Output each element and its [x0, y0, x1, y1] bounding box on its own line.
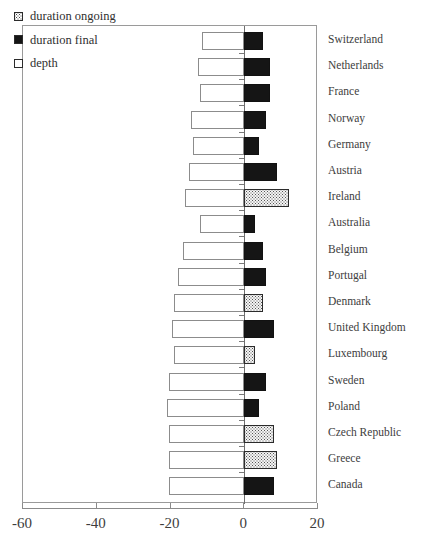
category-tick — [239, 236, 244, 237]
bar-duration-final — [244, 163, 277, 181]
bar-duration-final — [244, 242, 262, 260]
category-tick — [239, 394, 244, 395]
category-tick — [239, 263, 244, 264]
category-tick — [239, 289, 244, 290]
bar-depth — [174, 294, 244, 312]
x-axis-tick — [22, 503, 23, 509]
category-tick — [239, 158, 244, 159]
bar-depth — [169, 425, 245, 443]
category-label-portugal: Portugal — [328, 270, 367, 282]
legend-item-duration-final: duration final — [14, 34, 116, 47]
bar-duration-ongoing — [244, 425, 274, 443]
category-tick — [239, 53, 244, 54]
category-label-greece: Greece — [328, 453, 361, 465]
category-label-denmark: Denmark — [328, 296, 371, 308]
bar-depth — [198, 58, 244, 76]
bar-depth — [189, 163, 244, 181]
category-tick — [239, 341, 244, 342]
bar-duration-final — [244, 137, 259, 155]
bar-duration-final — [244, 268, 266, 286]
bar-duration-final — [244, 84, 270, 102]
chart-legend: duration ongoing duration final depth — [14, 10, 116, 70]
legend-item-depth: depth — [14, 57, 116, 70]
bar-duration-ongoing — [244, 346, 255, 364]
bar-duration-ongoing — [244, 451, 277, 469]
clipped-title-fragment — [0, 0, 430, 5]
bar-depth — [200, 215, 244, 233]
category-label-norway: Norway — [328, 113, 365, 125]
category-tick — [239, 472, 244, 473]
x-axis-tick — [170, 503, 171, 509]
category-label-netherlands: Netherlands — [328, 60, 384, 72]
x-axis-tick-label: -20 — [160, 516, 180, 531]
legend-label-duration-ongoing: duration ongoing — [30, 10, 116, 23]
bar-duration-final — [244, 373, 266, 391]
bar-duration-final — [244, 215, 255, 233]
bar-depth — [193, 137, 245, 155]
category-tick — [239, 210, 244, 211]
bar-duration-ongoing — [244, 189, 288, 207]
bar-duration-final — [244, 477, 274, 495]
legend-swatch-solid-icon — [14, 35, 23, 44]
category-tick — [239, 420, 244, 421]
category-label-germany: Germany — [328, 139, 371, 151]
category-tick — [239, 446, 244, 447]
x-axis-tick — [243, 503, 244, 509]
x-axis-tick-label: -40 — [86, 516, 106, 531]
x-axis-tick-label: -60 — [12, 516, 32, 531]
category-label-belgium: Belgium — [328, 244, 368, 256]
bar-duration-ongoing — [244, 294, 262, 312]
bar-duration-final — [244, 320, 274, 338]
x-axis-tick — [96, 503, 97, 509]
category-tick — [239, 79, 244, 80]
category-label-luxembourg: Luxembourg — [328, 348, 387, 360]
bar-depth — [202, 32, 244, 50]
bar-depth — [174, 346, 244, 364]
bar-duration-final — [244, 58, 270, 76]
legend-label-duration-final: duration final — [30, 34, 98, 47]
bar-depth — [167, 399, 244, 417]
x-axis-tick-label: 0 — [240, 516, 248, 531]
plot-area — [22, 25, 317, 503]
legend-item-duration-ongoing: duration ongoing — [14, 10, 116, 23]
bar-depth — [169, 451, 245, 469]
bar-depth — [178, 268, 244, 286]
category-label-france: France — [328, 86, 359, 98]
category-label-sweden: Sweden — [328, 375, 364, 387]
category-tick — [239, 105, 244, 106]
category-label-united-kingdom: United Kingdom — [328, 322, 406, 334]
horizontal-bar-chart: duration ongoing duration final depth Sw… — [0, 0, 430, 560]
x-axis-tick — [317, 503, 318, 509]
category-label-poland: Poland — [328, 401, 360, 413]
bar-duration-final — [244, 111, 266, 129]
category-tick — [239, 184, 244, 185]
legend-swatch-empty-icon — [14, 59, 23, 68]
bar-depth — [169, 373, 245, 391]
category-tick — [239, 367, 244, 368]
category-label-australia: Australia — [328, 217, 370, 229]
bar-depth — [200, 84, 244, 102]
category-tick — [239, 132, 244, 133]
bar-duration-final — [244, 399, 259, 417]
category-tick — [239, 315, 244, 316]
category-label-ireland: Ireland — [328, 191, 361, 203]
category-label-czech-republic: Czech Republic — [328, 427, 401, 439]
bar-depth — [169, 477, 245, 495]
bar-depth — [185, 189, 244, 207]
category-label-austria: Austria — [328, 165, 362, 177]
bar-depth — [172, 320, 244, 338]
bar-duration-final — [244, 32, 262, 50]
x-axis-tick-label: 20 — [310, 516, 325, 531]
category-label-canada: Canada — [328, 479, 362, 491]
bar-depth — [183, 242, 244, 260]
legend-swatch-dotted-icon — [14, 12, 23, 21]
bar-depth — [191, 111, 244, 129]
category-label-switzerland: Switzerland — [328, 34, 383, 46]
legend-label-depth: depth — [30, 57, 58, 70]
